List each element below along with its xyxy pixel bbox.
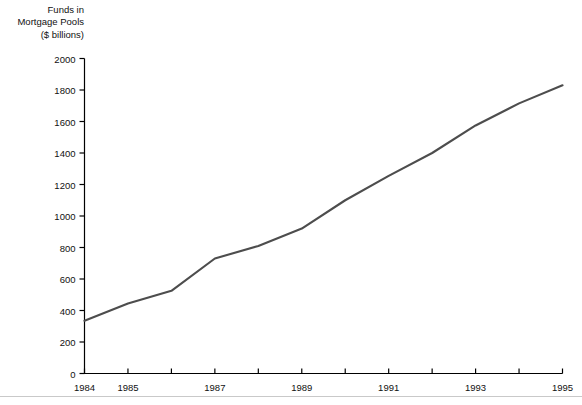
footer-divider <box>0 396 582 397</box>
y-tick-label: 0 <box>0 368 76 379</box>
y-tick-label: 2000 <box>0 53 76 64</box>
data-series-line <box>85 85 563 320</box>
chart-figure: Funds in Mortgage Pools ($ billions) 020… <box>0 0 582 405</box>
axes <box>85 59 563 374</box>
x-tick-label: 1993 <box>465 382 486 393</box>
plot-area <box>0 0 582 405</box>
x-tick-label: 1987 <box>204 382 225 393</box>
y-tick-label: 1200 <box>0 179 76 190</box>
y-tick-label: 1000 <box>0 211 76 222</box>
x-tick-label: 1984 <box>74 382 95 393</box>
x-tick-label: 1985 <box>117 382 138 393</box>
y-tick-label: 1400 <box>0 148 76 159</box>
x-tick-label: 1989 <box>291 382 312 393</box>
y-tick-label: 400 <box>0 305 76 316</box>
y-tick-label: 600 <box>0 274 76 285</box>
y-tick-label: 1800 <box>0 85 76 96</box>
y-tick-label: 1600 <box>0 116 76 127</box>
y-tick-label: 800 <box>0 242 76 253</box>
y-tick-label: 200 <box>0 337 76 348</box>
x-tick-label: 1995 <box>552 382 573 393</box>
x-tick-label: 1991 <box>378 382 399 393</box>
